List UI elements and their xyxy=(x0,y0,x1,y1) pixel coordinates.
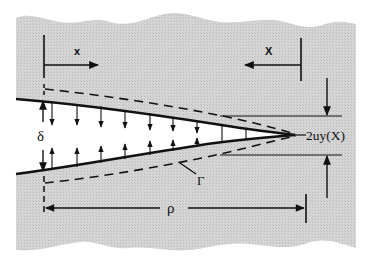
gamma-label: Γ xyxy=(197,173,205,188)
x-left-label: x xyxy=(74,45,81,57)
rho-label: ρ xyxy=(167,200,175,216)
crack-diagram: δ Γ x X 2uy(X) ρ xyxy=(0,0,368,270)
opening-label: 2uy(X) xyxy=(306,128,345,143)
delta-label: δ xyxy=(37,128,44,144)
x-right-label: X xyxy=(265,45,273,57)
